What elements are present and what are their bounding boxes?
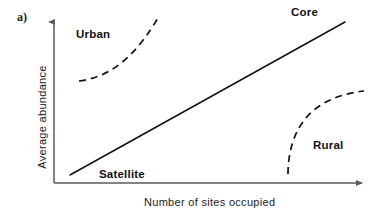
series-label-core: Core	[291, 6, 318, 18]
figure-panel: a) Urban Core Satellite Rural Number of …	[0, 0, 380, 218]
figure-canvas	[0, 0, 380, 218]
x-axis-title: Number of sites occupied	[144, 196, 275, 208]
y-axis-title: Average abundance	[36, 57, 48, 177]
core-satellite-line	[70, 22, 345, 175]
series-label-rural: Rural	[313, 139, 343, 151]
panel-label: a)	[17, 10, 27, 25]
rural-curve	[288, 91, 364, 174]
urban-curve	[79, 16, 159, 81]
series-label-urban: Urban	[76, 28, 110, 40]
series-label-satellite: Satellite	[99, 168, 145, 180]
